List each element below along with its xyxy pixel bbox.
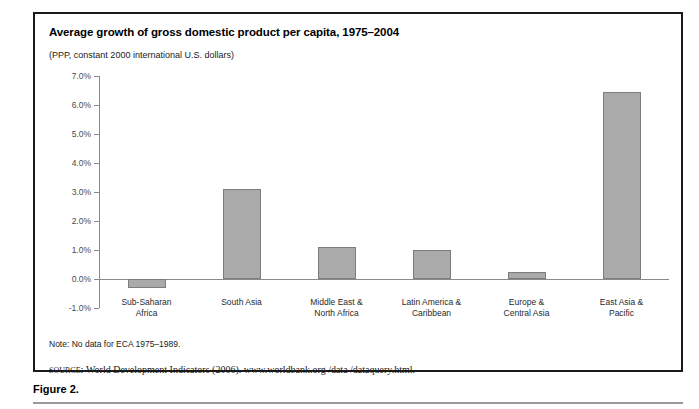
category-label: South Asia — [194, 297, 289, 308]
y-tick-label: 6.0% — [72, 100, 91, 110]
bar — [413, 250, 451, 279]
bar — [603, 92, 641, 279]
chart-note: Note: No data for ECA 1975–1989. — [49, 339, 180, 349]
y-tick-label: 3.0% — [72, 187, 91, 197]
category-label: East Asia &Pacific — [574, 297, 669, 319]
category-label: Sub-SaharanAfrica — [99, 297, 194, 319]
x-axis-baseline — [99, 279, 669, 280]
chart-source: source: World Development Indicators (20… — [49, 363, 415, 375]
category-label: Middle East &North Africa — [289, 297, 384, 319]
y-tick-mark — [94, 221, 99, 222]
category-label: Latin America &Caribbean — [384, 297, 479, 319]
bar — [128, 279, 166, 288]
figure-panel: Average growth of gross domestic product… — [33, 12, 683, 372]
chart-subtitle: (PPP, constant 2000 international U.S. d… — [49, 50, 234, 60]
y-tick-label: 2.0% — [72, 216, 91, 226]
y-tick-mark — [94, 192, 99, 193]
caption-rule — [33, 402, 683, 404]
figure-caption: Figure 2. — [33, 383, 79, 395]
source-text: World Development Indicators (2006). www… — [86, 364, 415, 375]
y-tick-label: 0.0% — [72, 274, 91, 284]
bar — [508, 272, 546, 279]
y-tick-label: 7.0% — [72, 71, 91, 81]
y-tick-label: 5.0% — [72, 129, 91, 139]
y-tick-mark — [94, 134, 99, 135]
plot-area: 7.0%6.0%5.0%4.0%3.0%2.0%1.0%0.0%-1.0% Su… — [99, 76, 669, 308]
y-tick-label: 4.0% — [72, 158, 91, 168]
y-tick-mark — [94, 163, 99, 164]
bar — [223, 189, 261, 279]
y-tick-label: -1.0% — [69, 303, 91, 313]
category-label: Europe &Central Asia — [479, 297, 574, 319]
y-axis-line — [99, 76, 100, 308]
chart-title: Average growth of gross domestic product… — [49, 26, 399, 38]
bar — [318, 247, 356, 279]
y-tick-mark — [94, 250, 99, 251]
y-tick-label: 1.0% — [72, 245, 91, 255]
y-tick-mark — [94, 105, 99, 106]
y-tick-mark — [94, 76, 99, 77]
source-label: source: — [49, 363, 84, 375]
